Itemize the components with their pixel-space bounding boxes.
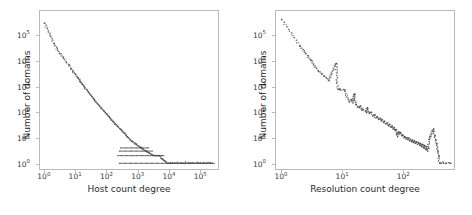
y-tick-mark <box>36 112 39 113</box>
x-tick-label: 102 <box>397 172 410 181</box>
x-tick-label: 105 <box>194 172 207 181</box>
x-tick-label: 102 <box>100 172 113 181</box>
plot-area-left <box>39 10 219 170</box>
y-tick-mark <box>272 61 275 62</box>
resolution-count-degree-panel: 100101102103104105 100101102 Resolution … <box>236 0 472 215</box>
x-tick-mark <box>403 170 404 173</box>
y-tick-mark <box>36 87 39 88</box>
x-tick-mark <box>75 170 76 173</box>
x-tick-mark <box>138 170 139 173</box>
x-axis-label-right: Resolution count degree <box>275 184 455 194</box>
x-tick-label: 103 <box>131 172 144 181</box>
x-tick-mark <box>281 170 282 173</box>
x-tick-mark <box>106 170 107 173</box>
x-tick-label: 100 <box>274 172 287 181</box>
x-axis-label-left: Host count degree <box>39 184 219 194</box>
x-tick-label: 104 <box>162 172 175 181</box>
x-tick-mark <box>200 170 201 173</box>
y-tick-mark <box>36 138 39 139</box>
y-tick-mark <box>272 35 275 36</box>
y-tick-mark <box>272 164 275 165</box>
y-tick-mark <box>36 35 39 36</box>
x-tick-mark <box>169 170 170 173</box>
x-tick-mark <box>44 170 45 173</box>
host-count-degree-panel: 100101102103104105 100101102103104105 Ho… <box>0 0 236 215</box>
y-tick-mark <box>272 138 275 139</box>
y-tick-mark <box>36 61 39 62</box>
scatter-plot-right <box>276 11 454 169</box>
scatter-plot-left <box>40 11 218 169</box>
plot-area-right <box>275 10 455 170</box>
x-tick-label: 100 <box>37 172 50 181</box>
figure-container: 100101102103104105 100101102103104105 Ho… <box>0 0 472 215</box>
y-axis-label-right: Number of domains <box>258 20 268 170</box>
x-tick-mark <box>342 170 343 173</box>
x-tick-label: 101 <box>336 172 349 181</box>
y-tick-mark <box>272 87 275 88</box>
y-axis-label-left: Number of domains <box>22 20 32 170</box>
y-tick-mark <box>272 112 275 113</box>
x-tick-label: 101 <box>69 172 82 181</box>
y-tick-mark <box>36 164 39 165</box>
